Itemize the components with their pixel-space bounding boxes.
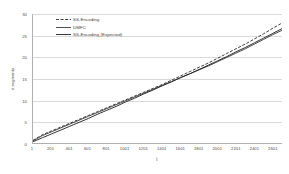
x-tick-label: 401	[65, 146, 72, 151]
x-tick-label: 201	[47, 146, 54, 151]
y-tick-label: 5	[25, 120, 27, 125]
legend-item[interactable]: DMFC	[56, 24, 166, 32]
x-tick-label: 1201	[138, 146, 148, 151]
y-tick-label: 25	[22, 33, 27, 38]
y-tick-label: 15	[22, 77, 27, 82]
x-tick-label: 1401	[157, 146, 167, 151]
x-tick-label: 2401	[250, 146, 260, 151]
chart-container: # segments 051015202530 1201401601801100…	[0, 0, 289, 174]
x-tick-label: 1001	[120, 146, 130, 151]
chart-legend: SS-EncodingDMFCSS-Encoding (Expected)	[56, 16, 166, 39]
y-tick-label: 0	[25, 142, 27, 147]
x-tick-label: 601	[84, 146, 91, 151]
x-axis-title: t	[32, 157, 282, 162]
x-tick-label: 2001	[212, 146, 222, 151]
x-axis-ticks: 1201401601801100112011401160118012001220…	[32, 146, 282, 156]
legend-line-icon	[56, 32, 71, 37]
y-tick-label: 20	[22, 55, 27, 60]
legend-line-icon	[56, 25, 71, 30]
legend-label: DMFC	[73, 25, 86, 30]
series-line	[33, 30, 282, 141]
series-line	[33, 23, 282, 140]
x-tick-label: 2201	[231, 146, 241, 151]
x-tick-label: 1801	[194, 146, 204, 151]
y-tick-label: 10	[22, 98, 27, 103]
legend-label: SS-Encoding (Expected)	[73, 32, 122, 37]
legend-item[interactable]: SS-Encoding (Expected)	[56, 31, 166, 39]
y-tick-label: 30	[22, 12, 27, 17]
series-line	[33, 29, 282, 142]
x-tick-label: 1601	[175, 146, 185, 151]
x-tick-label: 1	[31, 146, 33, 151]
legend-label: SS-Encoding	[73, 17, 99, 22]
x-tick-label: 2601	[268, 146, 278, 151]
legend-item[interactable]: SS-Encoding	[56, 16, 166, 24]
legend-line-icon	[56, 17, 71, 22]
x-tick-label: 801	[103, 146, 110, 151]
y-axis-ticks: 051015202530	[0, 14, 30, 144]
